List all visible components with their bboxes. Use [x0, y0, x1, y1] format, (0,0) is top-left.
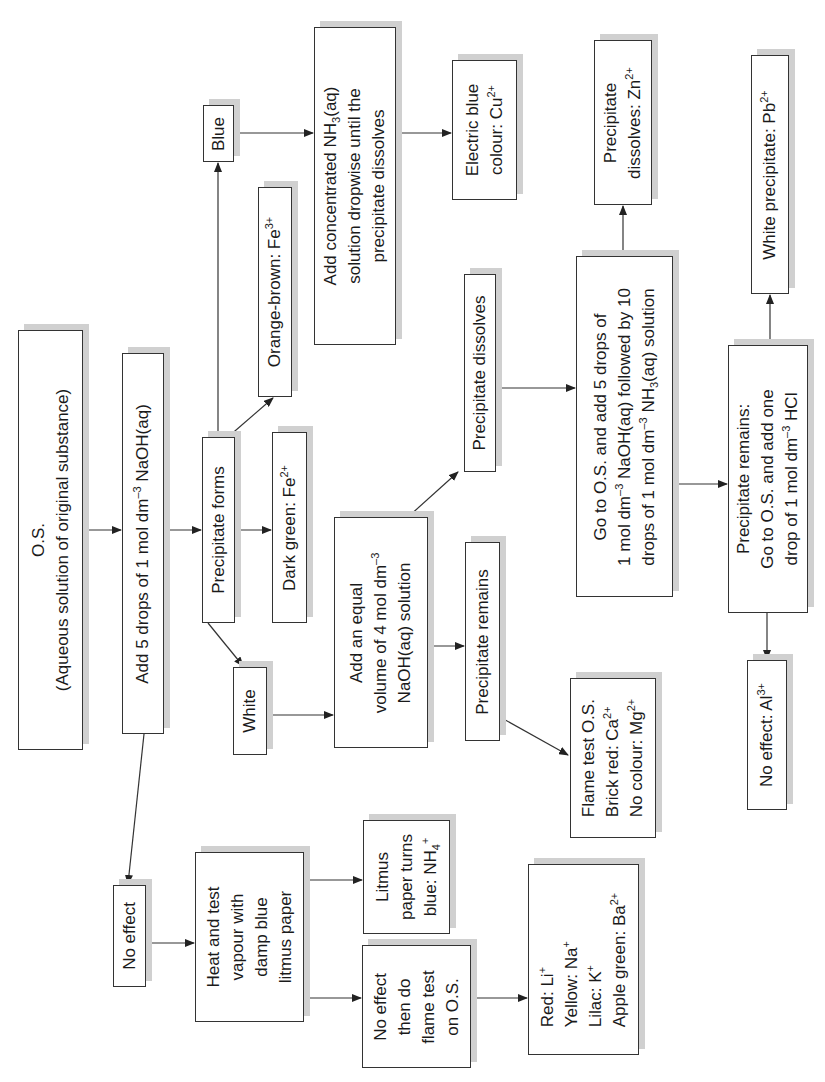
- node-precipitate-remains: Precipitate remains: [465, 542, 500, 741]
- os-title: O.S.: [27, 389, 51, 691]
- go-to-os-line-3: drops of 1 mol dm–3 NH3(aq) solution: [637, 288, 661, 566]
- node-go-to-os-nh3: Go to O.S. and add 5 drops of 1 mol dm–3…: [576, 256, 673, 597]
- equal-volume-line-3: NaOH(aq) solution: [393, 552, 417, 713]
- node-remains-add-hcl: Precipitate remains: Go to O.S. and add …: [728, 345, 808, 613]
- heat-line-2: vapour with: [226, 886, 250, 987]
- precipitate-forms-text: Precipitate forms: [207, 466, 231, 594]
- k-line: Lilac: K+: [584, 892, 608, 1026]
- zn-line-2: dissolves: Zn2+: [623, 67, 647, 179]
- zn-line-1: Precipitate: [599, 67, 623, 179]
- add-naoh-text: Add 5 drops of 1 mol dm–3 NaOH(aq): [131, 404, 155, 684]
- heat-line-4: litmus paper: [274, 886, 298, 987]
- flame-test-line-2: Brick red: Ca2+: [601, 699, 625, 817]
- litmus-line-2: paper turns: [395, 834, 419, 920]
- add-nh3-line-2: solution dropwise until the: [343, 87, 367, 286]
- heat-line-1: Heat and test: [202, 886, 226, 987]
- go-to-os-line-2: 1 mol dm–3 NaOH(aq) followed by 10: [613, 288, 637, 566]
- node-flame-test-ca-mg: Flame test O.S. Brick red: Ca2+ No colou…: [570, 678, 656, 838]
- white-text: White: [238, 689, 262, 732]
- na-line: Yellow: Na+: [560, 892, 584, 1026]
- node-flame-colours: Red: Li+ Yellow: Na+ Lilac: K+ Apple gre…: [528, 864, 639, 1055]
- precipitate-dissolves-text: Precipitate dissolves: [468, 296, 492, 451]
- node-add-naoh: Add 5 drops of 1 mol dm–3 NaOH(aq): [122, 353, 164, 734]
- litmus-line-1: Litmus: [371, 834, 395, 920]
- al-text: No effect: Al3+: [755, 683, 779, 787]
- node-electric-blue-cu2: Electric blue colour: Cu2+: [452, 60, 517, 200]
- node-add-conc-nh3: Add concentrated NH3(aq) solution dropwi…: [314, 27, 396, 345]
- node-dissolves-zn2: Precipitate dissolves: Zn2+: [594, 40, 652, 205]
- node-dark-green-fe2: Dark green: Fe2+: [272, 432, 307, 623]
- hcl-line-1: Precipitate remains:: [732, 389, 756, 569]
- heat-line-3: damp blue: [250, 886, 274, 987]
- node-heat-and-test: Heat and test vapour with damp blue litm…: [195, 852, 304, 1022]
- equal-volume-line-2: volume of 4 mol dm–3: [369, 552, 393, 713]
- litmus-line-3: blue: NH4+: [419, 834, 443, 920]
- flame-os-line-1: No effect: [369, 970, 393, 1044]
- orange-brown-text: Orange-brown: Fe3+: [263, 217, 287, 368]
- pb-text: White precipitate: Pb2+: [758, 90, 782, 259]
- electric-blue-line-2: colour: Cu2+: [485, 84, 509, 177]
- node-blue: Blue: [203, 105, 234, 162]
- hcl-line-2: Go to O.S. and add one: [756, 389, 780, 569]
- precipitate-remains-text: Precipitate remains: [471, 569, 495, 715]
- blue-text: Blue: [207, 116, 231, 150]
- node-white: White: [233, 667, 267, 755]
- node-no-effect: No effect: [113, 885, 146, 987]
- flame-os-line-3: flame test: [417, 970, 441, 1044]
- node-white-precipitate-pb2: White precipitate: Pb2+: [751, 55, 789, 294]
- flowchart: O.S. (Aqueous solution of original subst…: [0, 0, 825, 1082]
- ba-line: Apple green: Ba2+: [608, 892, 632, 1026]
- electric-blue-line-1: Electric blue: [461, 84, 485, 177]
- node-precipitate-dissolves: Precipitate dissolves: [464, 274, 496, 472]
- node-no-effect-al3: No effect: Al3+: [747, 660, 787, 810]
- node-precipitate-forms: Precipitate forms: [202, 437, 235, 623]
- node-no-effect-flame-test: No effect then do flame test on O.S.: [362, 945, 471, 1068]
- flame-test-line-1: Flame test O.S.: [577, 699, 601, 817]
- equal-volume-line-1: Add an equal: [345, 552, 369, 713]
- add-nh3-line-1: Add concentrated NH3(aq): [319, 87, 343, 286]
- no-effect-text: No effect: [118, 902, 142, 970]
- node-original-solution: O.S. (Aqueous solution of original subst…: [18, 330, 83, 750]
- flame-test-line-3: No colour: Mg2+: [625, 699, 649, 817]
- node-add-equal-volume: Add an equal volume of 4 mol dm–3 NaOH(a…: [334, 517, 428, 748]
- li-line: Red: Li+: [536, 892, 560, 1026]
- os-subtitle: (Aqueous solution of original substance): [51, 389, 75, 691]
- node-litmus-nh4: Litmus paper turns blue: NH4+: [363, 820, 450, 934]
- add-nh3-line-3: precipitate dissolves: [367, 87, 391, 286]
- go-to-os-line-1: Go to O.S. and add 5 drops of: [589, 288, 613, 566]
- flame-os-line-2: then do: [393, 970, 417, 1044]
- dark-green-text: Dark green: Fe2+: [278, 465, 302, 591]
- flame-os-line-4: on O.S.: [441, 970, 465, 1044]
- hcl-line-3: drop of 1 mol dm–3 HCl: [780, 389, 804, 569]
- node-orange-brown-fe3: Orange-brown: Fe3+: [258, 187, 292, 397]
